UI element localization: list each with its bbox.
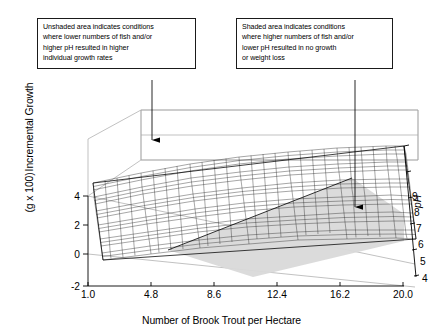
callout-line: higher pH resulted in higher (43, 43, 190, 53)
y-tick-label: 4 (58, 191, 80, 202)
x-axis-title: Number of Brook Trout per Hectare (0, 315, 443, 326)
y-axis-title: Incremental Growth (g x 100) (24, 73, 35, 223)
x-tick-label: 16.2 (330, 289, 350, 300)
shaded-area-callout: Shaded area indicates conditions where h… (236, 18, 393, 69)
x-tick-label: 12.4 (267, 289, 287, 300)
growth-surface-figure: Unshaded area indicates conditions where… (0, 0, 443, 332)
unshaded-area-callout: Unshaded area indicates conditions where… (37, 18, 196, 69)
x-tick-label: 1.0 (81, 289, 95, 300)
y-tick-label: -2 (54, 281, 80, 292)
callout-line: lower pH resulted in no growth (242, 43, 387, 53)
callout-line: where lower numbers of fish and/or (43, 32, 190, 42)
x-tick-label: 20.0 (393, 289, 413, 300)
x-tick-label: 4.8 (144, 289, 158, 300)
callout-line: where higher numbers of fish and/or (242, 32, 387, 42)
callout-line: Unshaded area indicates conditions (43, 22, 190, 32)
z-tick-label: 8 (414, 207, 420, 218)
z-tick-label: 6 (418, 239, 424, 250)
y-axis-title-main: Incremental Growth (24, 83, 35, 172)
z-tick-label: 7 (416, 223, 422, 234)
x-tick-label: 8.6 (207, 289, 221, 300)
z-tick-label: 4 (422, 273, 428, 284)
y-axis-title-units: (g x 100) (24, 172, 35, 212)
callout-line: or weight loss (242, 53, 387, 63)
z-axis-title: pH (412, 195, 423, 208)
z-tick-label: 5 (420, 256, 426, 267)
callout-line: individual growth rates (43, 53, 190, 63)
y-tick-label: 0 (58, 249, 80, 260)
callout-line: Shaded area indicates conditions (242, 22, 387, 32)
y-tick-label: 2 (58, 220, 80, 231)
